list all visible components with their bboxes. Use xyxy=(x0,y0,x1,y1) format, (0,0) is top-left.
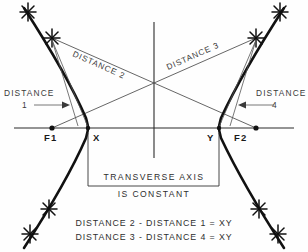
star-marker-lower-right-inner xyxy=(251,200,267,218)
star-marker-lower-left-outer xyxy=(22,225,38,243)
distance-3-label: DISTANCE 3 xyxy=(165,41,220,72)
right-callout-arrowhead xyxy=(238,102,246,109)
label-f1: F1 xyxy=(44,132,58,143)
distance-4-label-line1: DISTANCE xyxy=(256,88,307,98)
label-y: Y xyxy=(207,132,215,143)
star-marker-upper-left-inner xyxy=(44,29,60,47)
equation-line-2: DISTANCE 3 - DISTANCE 4 = XY xyxy=(75,232,232,242)
hyperbola-diagram: DISTANCE 2 DISTANCE 3 DISTANCE 1 DISTANC… xyxy=(0,0,308,252)
focus-point-f1 xyxy=(49,125,54,130)
focus-point-f2 xyxy=(253,125,258,130)
transverse-axis-label-line2: IS CONSTANT xyxy=(118,189,191,199)
star-marker-upper-right-outer xyxy=(272,3,288,21)
label-x: X xyxy=(93,132,101,143)
left-callout-arrowhead xyxy=(62,102,70,109)
equation-line-1: DISTANCE 2 - DISTANCE 1 = XY xyxy=(75,218,232,228)
vertex-point-y xyxy=(217,126,221,130)
star-marker-upper-left-outer xyxy=(20,3,36,21)
star-marker-lower-right-outer xyxy=(270,225,286,243)
distance-1-label-line2: 1 xyxy=(22,100,28,110)
distance-2-label: DISTANCE 2 xyxy=(71,50,126,81)
distance-4-label-line2: 4 xyxy=(272,100,278,110)
label-f2: F2 xyxy=(234,132,248,143)
transverse-axis-label-line1: TRANSVERSE AXIS xyxy=(104,172,205,182)
star-marker-lower-left-inner xyxy=(41,200,57,218)
diagram-canvas: DISTANCE 2 DISTANCE 3 DISTANCE 1 DISTANC… xyxy=(0,0,308,252)
vertex-point-x xyxy=(86,126,90,130)
distance-1-label-line1: DISTANCE xyxy=(4,88,55,98)
star-to-vertex-right-line xyxy=(219,40,256,127)
distance-4-segment xyxy=(230,40,256,126)
star-marker-upper-right-inner xyxy=(248,29,264,47)
